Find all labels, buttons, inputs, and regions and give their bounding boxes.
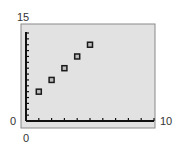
data-point — [36, 89, 41, 94]
xmax-label: 10 — [160, 115, 172, 127]
ymin-label: 0 — [10, 115, 16, 127]
ymax-label: 15 — [17, 11, 29, 23]
data-point — [49, 77, 54, 82]
data-point — [75, 54, 80, 59]
scatter-chart: 15 0 10 0 — [0, 0, 180, 150]
xmin-label: 0 — [23, 132, 29, 144]
plot-screen — [21, 24, 155, 128]
data-point — [62, 66, 67, 71]
data-point — [88, 42, 93, 47]
